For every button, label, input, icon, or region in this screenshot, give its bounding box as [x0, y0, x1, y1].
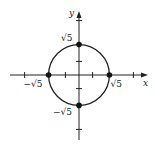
- intercept-point: [76, 103, 82, 109]
- x-axis-label: x: [143, 78, 148, 88]
- y-axis-label: y: [68, 8, 75, 18]
- intercept-point: [46, 72, 52, 78]
- point-label: √5: [110, 79, 122, 89]
- point-label: −√5: [53, 107, 72, 117]
- circle-graph: √5−√5√5−√5 x y: [0, 0, 154, 149]
- intercept-point: [76, 42, 82, 48]
- point-label: √5: [61, 33, 73, 43]
- x-axis-arrow: [141, 73, 148, 78]
- point-label: −√5: [24, 79, 43, 89]
- intercept-point: [107, 72, 113, 78]
- y-axis-arrow: [77, 11, 82, 18]
